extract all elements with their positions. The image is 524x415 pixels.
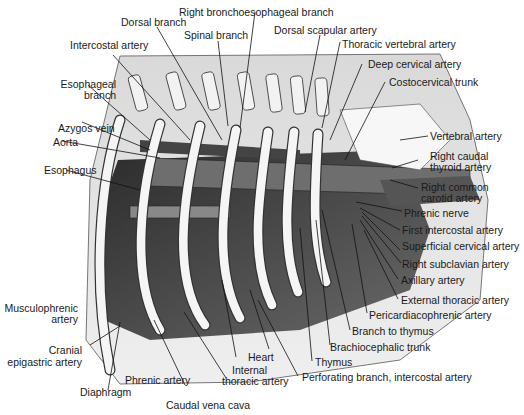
label-thoracic-vertebral-artery: Thoracic vertebral artery bbox=[342, 38, 456, 50]
label-costocervical-trunk: Costocervical trunk bbox=[389, 76, 478, 88]
label-deep-cervical-artery: Deep cervical artery bbox=[368, 58, 461, 70]
label-cranial-epigastric-artery-line2: epigastric artery bbox=[0, 356, 82, 368]
label-external-thoracic-artery: External thoracic artery bbox=[401, 294, 509, 306]
label-internal-thoracic-artery-line2: thoracic artery bbox=[222, 375, 289, 387]
label-brachiocephalic-trunk: Brachiocephalic trunk bbox=[330, 341, 430, 353]
label-first-intercostal-artery: First intercostal artery bbox=[402, 224, 503, 236]
label-musculophrenic-artery-line2: artery bbox=[0, 313, 78, 325]
anatomy-illustration: Right bronchoesophageal branch Dorsal br… bbox=[0, 0, 524, 415]
label-spinal-branch: Spinal branch bbox=[184, 29, 248, 41]
label-right-subclavian-artery: Right subclavian artery bbox=[402, 258, 509, 270]
label-right-caudal-thyroid-artery-line2: thyroid artery bbox=[430, 161, 491, 173]
label-esophageal-branch-line2: branch bbox=[46, 89, 116, 101]
label-right-bronchoesophageal-branch: Right bronchoesophageal branch bbox=[179, 6, 334, 18]
label-vertebral-artery: Vertebral artery bbox=[430, 130, 502, 142]
label-branch-to-thymus: Branch to thymus bbox=[352, 325, 434, 337]
label-esophagus: Esophagus bbox=[44, 164, 97, 176]
label-phrenic-nerve: Phrenic nerve bbox=[404, 207, 469, 219]
label-diaphragm: Diaphragm bbox=[80, 386, 131, 398]
label-perforating-branch-intercostal-artery: Perforating branch, intercostal artery bbox=[302, 371, 472, 383]
label-phrenic-artery: Phrenic artery bbox=[125, 374, 190, 386]
label-azygos-vein: Azygos vein bbox=[58, 122, 115, 134]
label-dorsal-scapular-artery: Dorsal scapular artery bbox=[274, 24, 377, 36]
label-pericardiacophrenic-artery: Pericardiacophrenic artery bbox=[369, 309, 492, 321]
label-right-common-carotid-artery-line2: carotid artery bbox=[421, 192, 482, 204]
label-dorsal-branch: Dorsal branch bbox=[121, 16, 186, 28]
label-thymus: Thymus bbox=[315, 356, 352, 368]
label-heart: Heart bbox=[248, 351, 274, 363]
label-cranial-epigastric-artery-line1: Cranial bbox=[0, 344, 82, 356]
label-intercostal-artery: Intercostal artery bbox=[70, 39, 148, 51]
label-superficial-cervical-artery: Superficial cervical artery bbox=[402, 240, 519, 252]
label-axillary-artery: Axillary artery bbox=[401, 274, 465, 286]
label-aorta: Aorta bbox=[53, 136, 78, 148]
label-caudal-vena-cava: Caudal vena cava bbox=[166, 399, 250, 411]
